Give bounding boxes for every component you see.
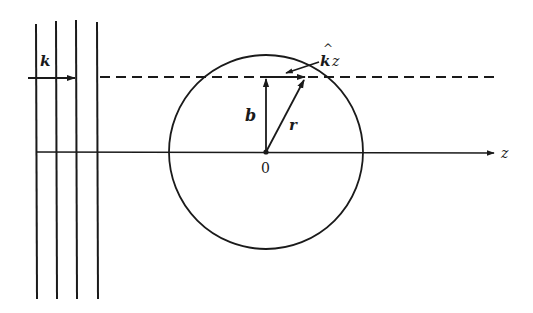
z-axis-label: z [500, 145, 509, 161]
k-label: k [40, 52, 50, 70]
wavefront-line-1 [36, 24, 37, 299]
scattering-diagram: k z 0 b r ^ k z [0, 0, 533, 313]
origin-label: 0 [261, 160, 270, 176]
wavefront-line-2 [56, 21, 57, 299]
svg-text:k: k [320, 52, 330, 70]
kz-label: ^ k z [320, 42, 340, 70]
r-vector [266, 80, 304, 152]
r-label: r [289, 116, 298, 134]
wavefront-line-3 [76, 20, 77, 299]
wavefront-line-4 [97, 22, 98, 299]
svg-text:z: z [331, 53, 340, 69]
b-label: b [245, 106, 256, 125]
